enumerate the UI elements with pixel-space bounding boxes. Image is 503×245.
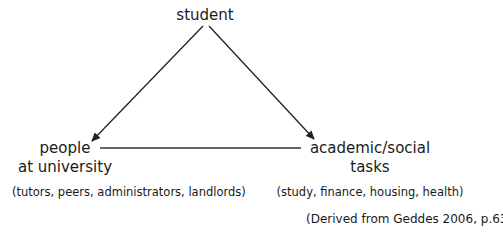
node-people-line1: people	[10, 138, 120, 158]
diagram-edges	[0, 0, 503, 245]
node-tasks-line2: tasks	[300, 157, 440, 177]
node-people-examples: (tutors, peers, administrators, landlord…	[12, 184, 228, 200]
edge-student-to-tasks	[209, 26, 314, 139]
node-student: student	[150, 5, 260, 25]
node-tasks-examples: (study, finance, housing, health)	[262, 184, 478, 200]
node-people-line2: at university	[10, 157, 120, 177]
node-tasks-line1: academic/social	[300, 138, 440, 158]
edge-student-to-people	[92, 26, 203, 141]
citation: (Derived from Geddes 2006, p.63)	[306, 211, 502, 227]
